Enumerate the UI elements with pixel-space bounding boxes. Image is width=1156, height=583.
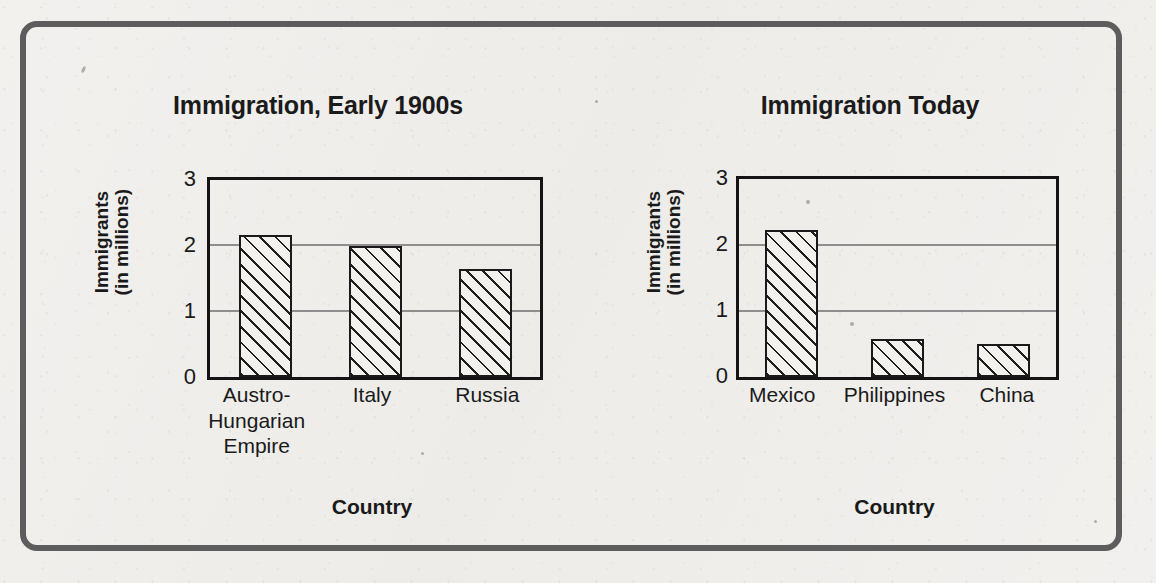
y-tick-1: 1 <box>716 299 728 321</box>
plot-area-left <box>207 177 543 380</box>
y-tick-1: 1 <box>184 300 196 322</box>
x-axis-title-right: Country <box>736 495 1053 519</box>
bar-italy <box>349 246 402 377</box>
y-axis-label-line1: Immigrants <box>644 162 664 322</box>
chart-title-left: Immigration, Early 1900s <box>48 91 588 120</box>
x-label-mexico: Mexico <box>726 382 838 408</box>
y-axis-ticks-left: 3 2 1 0 <box>170 177 196 377</box>
y-tick-0: 0 <box>184 366 196 388</box>
x-label-china: China <box>951 382 1063 408</box>
bar-slot <box>430 180 540 377</box>
bar-slot <box>210 180 320 377</box>
y-axis-ticks-right: 3 2 1 0 <box>702 176 728 376</box>
y-axis-label-line2: (in millions) <box>664 162 684 322</box>
x-label-philippines: Philippines <box>838 382 950 408</box>
x-label-russia: Russia <box>430 382 545 459</box>
bar-slot <box>739 179 845 377</box>
bar-austro-hungarian-empire <box>239 235 292 377</box>
bar-philippines <box>871 339 924 377</box>
x-label-italy: Italy <box>314 382 429 459</box>
chart-immigration-today: Immigration Today Immigrants (in million… <box>626 27 1126 545</box>
y-axis-label-line1: Immigrants <box>92 162 112 322</box>
y-tick-3: 3 <box>716 167 728 189</box>
y-axis-label-left: Immigrants (in millions) <box>92 162 132 322</box>
plot-area-right <box>736 176 1059 380</box>
chart-immigration-early-1900s: Immigration, Early 1900s Immigrants (in … <box>66 27 606 545</box>
x-label-austro-hungarian-empire: Austro- Hungarian Empire <box>199 382 314 459</box>
bar-group-right <box>739 179 1056 377</box>
bar-mexico <box>765 230 818 377</box>
x-axis-labels-right: Mexico Philippines China <box>726 382 1063 408</box>
x-axis-title-left: Country <box>207 495 537 519</box>
chart-title-right: Immigration Today <box>620 91 1120 120</box>
y-axis-label-right: Immigrants (in millions) <box>644 162 684 322</box>
bar-slot <box>320 180 430 377</box>
y-axis-label-line2: (in millions) <box>112 162 132 322</box>
y-tick-2: 2 <box>716 233 728 255</box>
figure-border-frame: Immigration, Early 1900s Immigrants (in … <box>20 21 1122 551</box>
bar-slot <box>845 179 951 377</box>
bar-china <box>977 344 1030 377</box>
bar-slot <box>950 179 1056 377</box>
bar-russia <box>459 269 512 377</box>
x-axis-labels-left: Austro- Hungarian Empire Italy Russia <box>199 382 545 459</box>
bar-group-left <box>210 180 540 377</box>
scanned-figure-page: Immigration, Early 1900s Immigrants (in … <box>0 0 1156 583</box>
y-tick-2: 2 <box>184 234 196 256</box>
y-tick-3: 3 <box>184 168 196 190</box>
